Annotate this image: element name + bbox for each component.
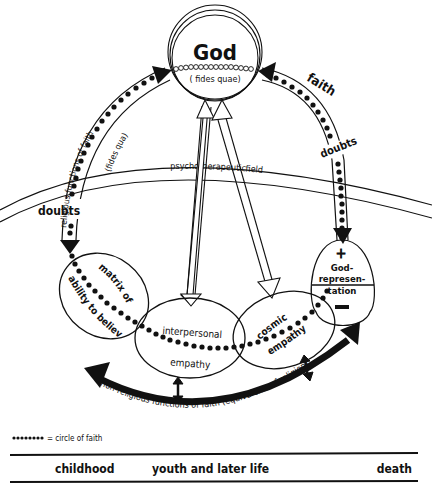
left-doubts-label: doubts [38,204,80,218]
faith-label: faith [304,70,338,99]
legend-label: = circle of faith [47,434,102,443]
matrix-ellipse [42,236,165,357]
god-subtitle: ( fides quae) [189,74,240,84]
god-circle: God ( fides quae) [166,5,266,101]
timeline: childhood youth and later life death [10,453,418,482]
god-representation: + God- represen- tation [311,240,374,326]
timeline-youth: youth and later life [152,462,269,476]
field-label-left: psychotherapeutic [170,161,246,173]
god-title: God [193,40,237,65]
timeline-death: death [377,462,412,476]
faith-diagram: psychotherapeutic field God ( fides quae… [0,0,432,500]
timeline-childhood: childhood [55,462,114,476]
god-rep-line3: tation [328,285,357,296]
plus-sign: + [336,245,347,261]
legend: = circle of faith [12,434,102,443]
god-rep-line1: God- [331,262,354,273]
minus-sign [335,305,349,309]
left-arc-arrowhead-bottom [60,240,80,254]
right-faith-arc: faith doubts [258,62,359,244]
interpersonal-label-2: empathy [170,357,211,371]
fides-qua-label: (fides qua) [103,131,130,173]
hollow-arrows [181,100,280,306]
god-rep-line2: represen- [319,273,366,284]
left-faith-arc: doubts religious functions of faith (fid… [38,66,172,254]
field-label-right: field [245,163,263,175]
